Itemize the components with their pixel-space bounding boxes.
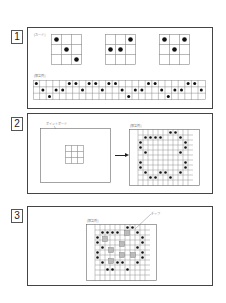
step-1-example-strip (33, 80, 207, 101)
point-board (40, 126, 112, 184)
card-l-shape (105, 34, 137, 66)
step-2-example-grid (129, 129, 201, 187)
step-1-example-label: [解答例] (34, 74, 45, 78)
card-v-shape (159, 34, 191, 66)
step-number-3: 3 (11, 209, 23, 223)
step-number-1: 1 (11, 30, 23, 44)
card-diagonal (51, 34, 83, 66)
step-3-example-grid (86, 224, 158, 282)
step-3-example-label: [解答例] (87, 219, 98, 223)
step-number-2: 2 (11, 117, 23, 131)
card-label: [カード] (34, 33, 45, 37)
step-2-example-label: [解答例] (130, 124, 141, 128)
